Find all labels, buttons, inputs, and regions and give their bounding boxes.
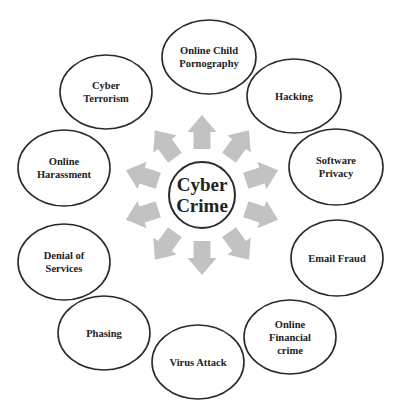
node-label-hacking: Hacking <box>275 90 313 103</box>
node-label-email-fraud: Email Fraud <box>308 252 365 265</box>
arrow-icon <box>241 195 282 233</box>
node-label-online-financial-crime: Online Financial crime <box>269 318 311 357</box>
node-label-online-child-pornography: Online Child Pornography <box>179 44 239 70</box>
center-label: Cyber Crime <box>176 174 228 216</box>
arrow-icon <box>188 115 217 149</box>
arrow-icon <box>143 122 186 167</box>
arrow-icon <box>121 195 162 233</box>
node-label-software-privacy: Software Privacy <box>316 154 356 180</box>
node-label-denial-of-services: Denial of Services <box>44 249 85 275</box>
node-label-online-harassment: Online Harassment <box>37 155 91 181</box>
arrow-icon <box>217 122 260 167</box>
arrow-icon <box>217 224 260 269</box>
arrow-icon <box>188 241 217 275</box>
node-label-virus-attack: Virus Attack <box>169 356 226 369</box>
arrow-icon <box>143 224 186 269</box>
node-label-cyber-terrorism: Cyber Terrorism <box>83 79 129 105</box>
arrow-icon <box>121 156 162 194</box>
arrow-icon <box>241 156 282 194</box>
node-label-phasing: Phasing <box>86 327 122 340</box>
